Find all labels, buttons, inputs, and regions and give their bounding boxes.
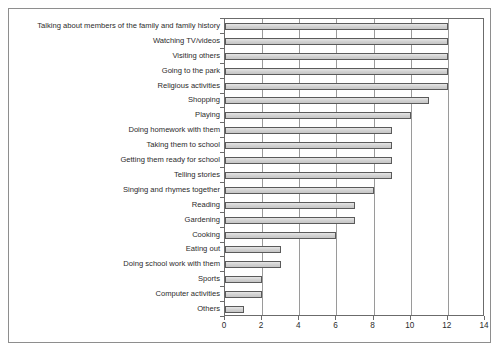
category-label: Religious activities [12,81,220,90]
value-tick [261,316,262,320]
bar-row [225,198,485,213]
value-tick [373,316,374,320]
category-label: Playing [12,110,220,119]
bar-row [225,272,485,287]
bar[interactable] [225,23,448,30]
value-tick-label: 14 [472,321,496,330]
value-tick-label: 10 [398,321,422,330]
category-label: Doing homework with them [12,125,220,134]
category-label: Gardening [12,215,220,224]
bar[interactable] [225,97,429,104]
bar-series [225,19,483,315]
bar[interactable] [225,157,392,164]
category-label: Others [12,304,220,313]
value-tick-label: 12 [435,321,459,330]
category-label: Computer activities [12,289,220,298]
plot-area [224,18,484,316]
category-label: Doing school work with them [12,259,220,268]
bar-row [225,34,485,49]
bar-row [225,287,485,302]
bar[interactable] [225,53,448,60]
category-label: Cooking [12,230,220,239]
category-label: Telling stories [12,170,220,179]
bar-row [225,183,485,198]
bar[interactable] [225,142,392,149]
bar-row [225,168,485,183]
bar[interactable] [225,112,411,119]
value-tick [447,316,448,320]
bar-row [225,302,485,317]
bar-row [225,243,485,258]
value-tick [410,316,411,320]
bar[interactable] [225,68,448,75]
category-label: Reading [12,200,220,209]
value-tick [484,316,485,320]
bar[interactable] [225,172,392,179]
category-label: Getting them ready for school [12,155,220,164]
bar[interactable] [225,187,374,194]
category-label: Visiting others [12,51,220,60]
category-label: Shopping [12,95,220,104]
bar[interactable] [225,232,336,239]
value-tick-label: 8 [361,321,385,330]
value-tick-label: 4 [286,321,310,330]
bar-row [225,257,485,272]
value-tick-label: 6 [323,321,347,330]
bar[interactable] [225,306,244,313]
bar[interactable] [225,217,355,224]
bar[interactable] [225,291,262,298]
bar-row [225,123,485,138]
bar[interactable] [225,38,448,45]
bar-row [225,228,485,243]
bar[interactable] [225,276,262,283]
bar[interactable] [225,202,355,209]
value-tick-label: 2 [249,321,273,330]
bar-chart-figure: Talking about members of the family and … [0,0,499,351]
category-axis-labels: Talking about members of the family and … [12,18,220,316]
category-label: Taking them to school [12,140,220,149]
value-tick [335,316,336,320]
bar-row [225,64,485,79]
bar[interactable] [225,246,281,253]
bar-row [225,49,485,64]
bar-row [225,138,485,153]
category-label: Talking about members of the family and … [12,21,220,30]
bar-row [225,94,485,109]
bar-row [225,19,485,34]
bar-row [225,153,485,168]
bar-row [225,79,485,94]
value-tick [298,316,299,320]
bar[interactable] [225,261,281,268]
bar[interactable] [225,127,392,134]
category-label: Going to the park [12,66,220,75]
category-label: Eating out [12,244,220,253]
bar-row [225,213,485,228]
category-label: Watching TV/videos [12,36,220,45]
value-tick [224,316,225,320]
bar[interactable] [225,83,448,90]
value-tick-label: 0 [212,321,236,330]
category-label: Sports [12,274,220,283]
bar-row [225,108,485,123]
category-label: Singing and rhymes together [12,185,220,194]
